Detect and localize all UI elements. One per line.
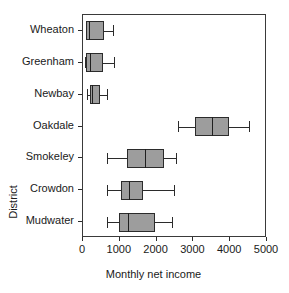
category-label-text: Mudwater — [26, 215, 74, 226]
box-iqr-mudwater — [119, 213, 156, 232]
x-axis-title-text: Monthly net income — [88, 268, 201, 280]
category-label-text: Smokeley — [26, 151, 74, 162]
category-tick-smokeley — [78, 157, 82, 158]
category-tick-newbay — [78, 94, 82, 95]
category-tick-crowdon — [78, 189, 82, 190]
x-tick-label-2000: 2000 — [143, 243, 167, 255]
x-tick-1000 — [119, 237, 120, 241]
category-label-text: Crowdon — [30, 183, 74, 194]
category-label-text: Wheaton — [30, 24, 74, 35]
whisker-low-line-mudwater — [107, 222, 119, 223]
x-tick-4000 — [229, 237, 230, 241]
x-tick-label-1000: 1000 — [107, 243, 131, 255]
whisker-high-line-mudwater — [155, 222, 172, 223]
category-tick-wheaton — [78, 30, 82, 31]
category-tick-greenham — [78, 62, 82, 63]
category-tick-mudwater — [78, 221, 82, 222]
category-label-text: Greenham — [22, 56, 74, 67]
x-tick-label-5000: 5000 — [254, 243, 278, 255]
x-tick-0 — [82, 237, 83, 241]
plot-area — [82, 14, 266, 237]
category-label-text: Oakdale — [33, 120, 74, 131]
box-series-layer — [83, 15, 265, 236]
whisker-cap-high-mudwater — [172, 217, 173, 228]
y-axis-title-text: District — [7, 185, 19, 219]
x-tick-5000 — [266, 237, 267, 241]
y-axis-title: District — [7, 167, 19, 237]
whisker-cap-low-mudwater — [107, 217, 108, 228]
box-plot-chart: WheatonGreenhamNewbayOakdaleSmokeleyCrow… — [0, 0, 289, 293]
x-tick-label-3000: 3000 — [180, 243, 204, 255]
x-tick-2000 — [156, 237, 157, 241]
x-tick-label-4000: 4000 — [217, 243, 241, 255]
category-label-text: Newbay — [34, 88, 74, 99]
x-axis-title: Monthly net income — [0, 268, 289, 280]
x-tick-3000 — [192, 237, 193, 241]
x-tick-label-0: 0 — [79, 243, 85, 255]
median-line-mudwater — [128, 213, 129, 232]
box-plot-mudwater — [83, 15, 265, 236]
category-tick-oakdale — [78, 126, 82, 127]
